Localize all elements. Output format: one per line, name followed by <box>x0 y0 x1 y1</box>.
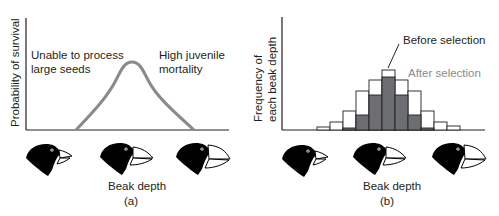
small-beak-bird-icon <box>282 145 328 177</box>
after-bar-3 <box>343 128 356 130</box>
after-bar-8 <box>408 115 421 130</box>
before-bar-9 <box>421 111 434 130</box>
before-bar-11 <box>447 126 460 130</box>
figure: Probability of survival Unable to proces… <box>0 0 499 216</box>
panel-a-ylabel: Probability of survival <box>9 18 21 127</box>
medium-beak-bird-icon <box>353 143 406 175</box>
medium-beak-bird-icon <box>100 143 153 175</box>
after-bar-5 <box>369 95 382 130</box>
before-bar-1 <box>317 127 330 130</box>
panel-a-note-left-line1: Unable to process <box>31 49 124 61</box>
panel-b-label: (b) <box>380 195 394 207</box>
large-beak-bird-icon <box>432 143 486 175</box>
panel-a-label: (a) <box>124 195 138 207</box>
panel-a-note-right-line1: High juvenile <box>159 49 225 61</box>
panel-a-note-left-line2: large seeds <box>31 63 91 75</box>
panel-a-xlabel: Beak depth <box>108 180 166 192</box>
panel-a-survival-chart: Probability of survival Unable to proces… <box>9 18 230 207</box>
legend-before-selection: Before selection <box>403 34 485 46</box>
panel-b-histogram: Frequency of each beak depth <box>252 17 486 207</box>
panel-b-ylabel-line1: Frequency of <box>252 54 264 122</box>
large-beak-bird-icon <box>176 143 230 175</box>
before-bar-2 <box>330 122 343 130</box>
small-beak-bird-icon <box>26 144 72 176</box>
before-selection-callout-line <box>388 44 399 68</box>
before-bar-10 <box>434 122 447 130</box>
after-bar-9 <box>421 128 434 130</box>
after-bar-4 <box>356 115 369 130</box>
panel-a-note-right-line2: mortality <box>159 63 203 75</box>
panel-b-ylabel-line2: each beak depth <box>266 37 278 122</box>
panel-b-xlabel: Beak depth <box>363 180 421 192</box>
before-bar-3 <box>343 111 356 130</box>
legend-after-selection: After selection <box>408 67 481 79</box>
after-bar-6 <box>382 77 395 130</box>
after-bar-7 <box>395 95 408 130</box>
